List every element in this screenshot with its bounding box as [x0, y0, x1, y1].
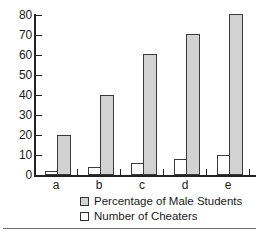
- y-tick-label-60: 60: [4, 49, 32, 61]
- x-tick-3: [163, 169, 164, 176]
- y-tick-label-10: 10: [4, 149, 32, 161]
- bottom-divider: [3, 228, 256, 229]
- y-tick-label-80: 80: [4, 9, 32, 21]
- plot-area: 80 70 60 50 40 30 20 10 0: [0, 0, 259, 192]
- bar-chart: 80 70 60 50 40 30 20 10 0: [0, 0, 259, 234]
- legend-swatch-gray-icon: [80, 197, 89, 206]
- y-tick-label-30: 30: [4, 109, 32, 121]
- bar-percentage-d: [186, 34, 200, 175]
- legend-swatch-white-icon: [80, 212, 89, 221]
- y-tick-label-40: 40: [4, 89, 32, 101]
- chart-legend: Percentage of Male Students Number of Ch…: [0, 194, 259, 224]
- x-label-e: e: [218, 179, 238, 192]
- x-label-a: a: [46, 179, 66, 192]
- y-tick-label-0: 0: [4, 169, 32, 181]
- bar-percentage-b: [100, 95, 114, 175]
- bar-percentage-a: [57, 135, 71, 175]
- x-label-c: c: [132, 179, 152, 192]
- legend-item-percentage: Percentage of Male Students: [0, 194, 259, 209]
- bars-layer: [34, 14, 256, 175]
- x-axis-line: [34, 175, 256, 177]
- legend-label-percentage: Percentage of Male Students: [94, 195, 242, 208]
- y-tick-label-50: 50: [4, 69, 32, 81]
- y-tick-label-20: 20: [4, 129, 32, 141]
- bar-percentage-e: [229, 14, 243, 175]
- y-tick-label-70: 70: [4, 29, 32, 41]
- bar-percentage-c: [143, 54, 157, 175]
- legend-item-cheaters: Number of Cheaters: [0, 209, 259, 224]
- legend-label-cheaters: Number of Cheaters: [94, 210, 198, 223]
- x-tick-1: [77, 169, 78, 176]
- x-label-d: d: [175, 179, 195, 192]
- x-tick-5: [249, 169, 250, 176]
- x-label-b: b: [89, 179, 109, 192]
- x-tick-2: [120, 169, 121, 176]
- x-tick-0: [34, 169, 35, 176]
- x-tick-4: [206, 169, 207, 176]
